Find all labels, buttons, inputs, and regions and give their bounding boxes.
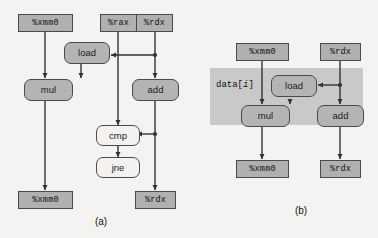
panel-a-op-add: add — [132, 79, 179, 101]
panel-a-op-load: load — [64, 42, 110, 64]
register-label: %rdx — [144, 18, 165, 28]
register-label: %xmm0 — [32, 196, 59, 205]
register-label: %rdx — [330, 48, 351, 57]
register-label: %xmm0 — [249, 48, 276, 57]
panel-b-bottom-register-rdx: %rdx — [320, 160, 361, 178]
panel-b-op-add: add — [317, 105, 364, 127]
panel-a-op-jne: jne — [96, 157, 140, 178]
operation-label: mul — [41, 85, 56, 95]
operation-label: cmp — [109, 131, 127, 141]
operation-label: add — [148, 85, 164, 95]
panel-a-op-cmp: cmp — [96, 125, 140, 146]
operation-label: load — [78, 48, 96, 58]
dataflow-figure: %xmm0 %rax %rdx load mul add cmp jne %xm… — [0, 0, 378, 238]
operation-label: add — [333, 111, 349, 121]
panel-a-top-register-rax: %rax — [101, 15, 137, 31]
panel-b-caption: (b) — [281, 205, 321, 216]
panel-a-op-mul: mul — [24, 79, 73, 101]
panel-a-bottom-register-xmm0: %xmm0 — [18, 191, 73, 209]
operation-label: jne — [112, 163, 125, 173]
panel-b-bottom-register-xmm0: %xmm0 — [236, 160, 289, 178]
panel-a-top-register-xmm0: %xmm0 — [18, 14, 73, 32]
register-label: %rdx — [330, 165, 351, 174]
panel-a-top-register-pair: %rax %rdx — [100, 14, 173, 32]
data-label-prefix: data[ — [216, 80, 243, 90]
operation-label: load — [285, 81, 303, 91]
panel-a-top-register-rdx: %rdx — [137, 15, 172, 31]
panel-a-caption: (a) — [81, 216, 121, 227]
register-label: %xmm0 — [32, 19, 59, 28]
panel-b-op-load: load — [271, 75, 317, 97]
panel-b-op-mul: mul — [241, 105, 290, 127]
data-label-suffix: ] — [248, 80, 253, 90]
panel-b-top-register-rdx: %rdx — [320, 43, 361, 61]
panel-b-top-register-xmm0: %xmm0 — [236, 43, 289, 61]
register-label: %rax — [108, 18, 129, 28]
register-label: %rdx — [145, 196, 166, 205]
register-label: %xmm0 — [249, 165, 276, 174]
panel-b-data-region-label: data[i] — [216, 80, 254, 90]
operation-label: mul — [258, 111, 273, 121]
panel-a-bottom-register-rdx: %rdx — [135, 191, 176, 209]
